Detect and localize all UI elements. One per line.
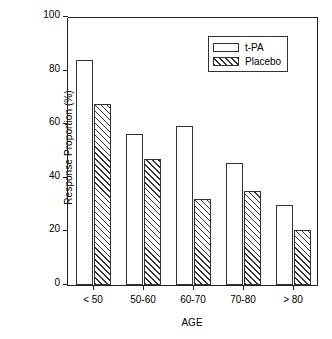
y-axis-tick-label: 100	[43, 9, 60, 20]
legend-swatch-open-icon	[213, 43, 239, 52]
plot-right-border	[317, 17, 318, 286]
y-axis-tick-label: 0	[54, 277, 60, 288]
x-axis-tick	[293, 285, 294, 290]
x-axis-tick-label: > 80	[283, 294, 303, 305]
bar-placebo-0	[94, 104, 111, 285]
y-axis-tick: 0	[63, 284, 68, 285]
bar-t-pa-0	[76, 60, 93, 285]
y-axis-tick-label: 80	[49, 63, 60, 74]
bar-placebo-4	[294, 230, 311, 285]
y-axis-tick: 40	[63, 177, 68, 178]
legend-label-tpa: t-PA	[245, 42, 264, 53]
bar-placebo-3	[244, 191, 261, 285]
x-axis-tick-label: 60-70	[180, 294, 206, 305]
plot-top-border	[68, 17, 318, 18]
x-axis-tick-label: < 50	[83, 294, 103, 305]
y-axis-tick: 20	[63, 230, 68, 231]
x-axis-tick-label: 50-60	[130, 294, 156, 305]
legend-item-placebo: Placebo	[213, 54, 281, 68]
y-axis-tick: 100	[63, 16, 68, 17]
y-axis-tick-label: 60	[49, 116, 60, 127]
bar-t-pa-2	[176, 126, 193, 285]
y-axis-tick-label: 20	[49, 223, 60, 234]
x-axis-tick	[193, 285, 194, 290]
x-axis-tick	[93, 285, 94, 290]
bar-chart-figure: Response Proportion (%) 020406080100 < 5…	[0, 0, 332, 339]
legend-item-tpa: t-PA	[213, 40, 281, 54]
bar-t-pa-1	[126, 134, 143, 285]
x-axis-tick-label: 70-80	[230, 294, 256, 305]
legend-label-placebo: Placebo	[245, 56, 281, 67]
legend-swatch-hatched-icon	[213, 57, 239, 66]
bar-placebo-2	[194, 199, 211, 285]
x-axis-tick	[243, 285, 244, 290]
bar-t-pa-3	[226, 163, 243, 285]
y-axis-tick-label: 40	[49, 170, 60, 181]
x-axis-tick	[143, 285, 144, 290]
chart-legend: t-PA Placebo	[208, 36, 288, 72]
y-axis-tick: 60	[63, 123, 68, 124]
bar-t-pa-4	[276, 205, 293, 285]
x-axis-title: AGE	[67, 317, 317, 328]
bar-placebo-1	[144, 159, 161, 285]
y-axis-tick: 80	[63, 70, 68, 71]
